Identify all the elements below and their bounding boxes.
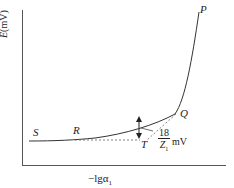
point-label-t: T (141, 139, 147, 150)
x-axis-label-sub: 1 (109, 179, 113, 187)
diagram-canvas (0, 0, 234, 188)
point-label-s: S (33, 127, 39, 138)
point-label-r: R (73, 125, 80, 136)
point-label-p: P (200, 4, 207, 15)
fraction-numerator: 18 (158, 128, 170, 139)
point-label-q: Q (180, 108, 188, 119)
x-axis-label-main: −lgα (88, 172, 109, 184)
y-axis-label: E(mV) (0, 10, 9, 38)
deviation-annotation: 18 Z1 mV (158, 128, 187, 155)
y-axis-var: E (0, 32, 9, 38)
fraction-denominator: Z1 (160, 139, 169, 155)
fraction: 18 Z1 (158, 128, 170, 155)
annotation-unit: mV (172, 136, 187, 147)
electrode-response-curve (29, 12, 199, 141)
annotation-leader (141, 128, 153, 131)
arrow-head-up-icon (136, 116, 142, 122)
x-axis-label: −lgα1 (88, 172, 112, 187)
denominator-sub: 1 (165, 146, 168, 152)
y-axis-unit: (mV) (0, 10, 9, 32)
